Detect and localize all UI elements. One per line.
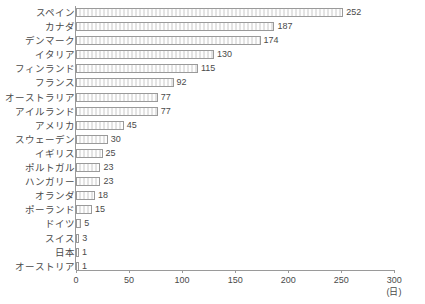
bar-chart: スペイン252カナダ187デンマーク174イタリア130フィンランド115フラン…: [0, 0, 425, 304]
bar-value-label: 45: [127, 120, 137, 131]
x-axis-tick-mark: [235, 270, 236, 273]
bar: [76, 107, 158, 116]
bar-category-label: オーストラリア: [5, 92, 75, 104]
bar-rows: スペイン252カナダ187デンマーク174イタリア130フィンランド115フラン…: [0, 6, 425, 274]
bar-row: カナダ187: [0, 20, 425, 34]
bar-row: スイス3: [0, 232, 425, 246]
bar-category-label: イギリス: [35, 148, 75, 160]
bar: [76, 36, 261, 45]
clipped-title-text: [18, 0, 227, 5]
bar: [76, 22, 274, 31]
bar-row: ポーランド15: [0, 203, 425, 217]
bar: [76, 50, 214, 59]
bar-value-label: 174: [264, 35, 279, 46]
bar-row: アイルランド77: [0, 105, 425, 119]
x-axis-tick-mark: [129, 270, 130, 273]
clipped-title-strip: [0, 0, 425, 5]
bar-row: ドイツ5: [0, 217, 425, 231]
bar-row: ポルトガル23: [0, 161, 425, 175]
bar-value-label: 5: [84, 218, 89, 229]
bar-category-label: イタリア: [35, 49, 75, 61]
x-axis-tick-label: 250: [334, 275, 349, 286]
x-axis-tick-label: 0: [73, 275, 78, 286]
bar-category-label: アイルランド: [15, 106, 75, 118]
bar-row: オーストリア1: [0, 260, 425, 274]
bar-value-label: 92: [177, 77, 187, 88]
bar-value-label: 23: [103, 176, 113, 187]
bar: [76, 191, 95, 200]
bar-value-label: 30: [111, 134, 121, 145]
bar-value-label: 18: [98, 190, 108, 201]
bar-category-label: オランダ: [35, 190, 75, 202]
bar-category-label: フランス: [35, 77, 75, 89]
bar-value-label: 3: [82, 233, 87, 244]
bar-row: ハンガリー23: [0, 175, 425, 189]
x-axis-tick-label: 100: [175, 275, 190, 286]
x-axis-tick-mark: [288, 270, 289, 273]
bar-category-label: スウェーデン: [15, 134, 75, 146]
bar-value-label: 252: [346, 7, 361, 18]
bar-value-label: 25: [106, 148, 116, 159]
x-axis-tick-mark: [76, 270, 77, 273]
bar-category-label: アメリカ: [35, 120, 75, 132]
bar-category-label: ポーランド: [25, 204, 75, 216]
bar-value-label: 1: [82, 247, 87, 258]
plot-area: スペイン252カナダ187デンマーク174イタリア130フィンランド115フラン…: [0, 6, 425, 272]
bar-category-label: ドイツ: [45, 218, 75, 230]
bar: [76, 149, 103, 158]
bar-category-label: オーストリア: [15, 261, 75, 273]
bar: [76, 64, 198, 73]
bar-category-label: 日本: [55, 247, 75, 259]
bar: [76, 135, 108, 144]
bar-row: 日本1: [0, 246, 425, 260]
bar-value-label: 115: [201, 63, 215, 74]
bar-row: フランス92: [0, 76, 425, 90]
bar: [76, 78, 174, 87]
bar: [76, 163, 100, 172]
bar-category-label: ポルトガル: [25, 162, 75, 174]
bar: [76, 205, 92, 214]
bar-value-label: 15: [95, 204, 105, 215]
bar: [76, 8, 343, 17]
bar: [76, 234, 79, 243]
bar-row: イギリス25: [0, 147, 425, 161]
bar-category-label: ハンガリー: [25, 176, 75, 188]
bar: [76, 219, 81, 228]
x-axis-tick-label: 50: [124, 275, 134, 286]
x-axis-tick-label: 150: [228, 275, 243, 286]
bar-value-label: 130: [217, 49, 232, 60]
bar-row: オランダ18: [0, 189, 425, 203]
bar-row: スウェーデン30: [0, 133, 425, 147]
bar-value-label: 77: [161, 92, 171, 103]
bar-value-label: 187: [277, 21, 292, 32]
bar-row: アメリカ45: [0, 119, 425, 133]
bar-row: イタリア130: [0, 48, 425, 62]
bar-row: スペイン252: [0, 6, 425, 20]
bar-row: デンマーク174: [0, 34, 425, 48]
bar-value-label: 23: [103, 162, 113, 173]
bar-category-label: スイス: [45, 233, 75, 245]
bar-category-label: カナダ: [45, 21, 75, 33]
x-axis-tick-label: 200: [281, 275, 296, 286]
bar: [76, 177, 100, 186]
bar-category-label: フィンランド: [15, 63, 75, 75]
x-axis-tick-mark: [182, 270, 183, 273]
x-axis-tick-mark: [341, 270, 342, 273]
bar-category-label: スペイン: [36, 7, 75, 19]
bar-row: オーストラリア77: [0, 91, 425, 105]
x-axis-unit-label: (日): [387, 287, 402, 298]
x-axis-tick-label: 300: [387, 275, 402, 286]
bar: [76, 248, 79, 257]
x-axis-tick-mark: [394, 270, 395, 273]
bar: [76, 121, 124, 130]
bar: [76, 93, 158, 102]
bar-row: フィンランド115: [0, 62, 425, 76]
bar-value-label: 77: [161, 106, 171, 117]
bar-category-label: デンマーク: [25, 35, 75, 47]
